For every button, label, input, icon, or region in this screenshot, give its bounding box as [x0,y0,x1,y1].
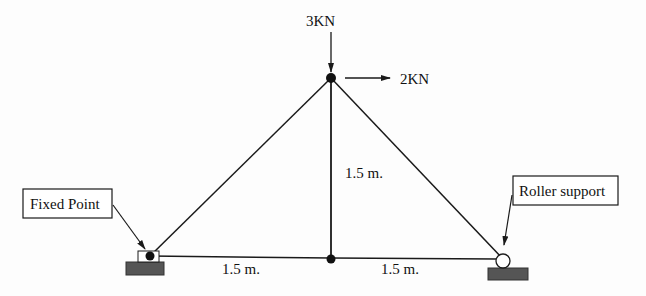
truss-canvas: 3KN 2KN 1.5 m. 1.5 m. 1.5 m. Fixed Point… [0,0,646,296]
fixed-point-callout-label: Fixed Point [30,196,100,212]
member-bottom-right [331,258,497,259]
node-bottom-middle [327,255,336,264]
left-span-dimension-label: 1.5 m. [222,261,260,277]
truss-diagram: 3KN 2KN 1.5 m. 1.5 m. 1.5 m. Fixed Point… [0,0,646,296]
roller-support-callout-arrow [504,195,512,245]
roller-support-wheel [496,254,510,268]
roller-support-base [488,268,528,280]
fixed-support-base [126,262,164,275]
node-apex [326,73,336,83]
right-span-dimension-label: 1.5 m. [381,261,419,277]
fixed-point-callout-arrow [113,205,145,249]
member-left-diagonal [150,78,331,256]
member-bottom-left [150,256,331,258]
height-dimension-label: 1.5 m. [345,165,383,181]
vertical-load-label: 3KN [306,13,335,29]
node-left-support [146,252,155,261]
roller-support-callout-label: Roller support [519,183,606,199]
horizontal-load-label: 2KN [400,71,429,87]
